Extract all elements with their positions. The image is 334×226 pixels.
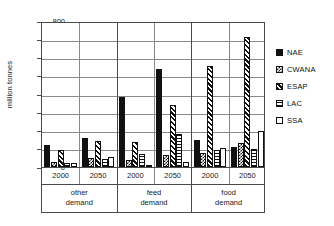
x-axis-year-label: 2050 <box>229 171 265 180</box>
bar-ssa-other-demand-2050 <box>108 157 114 167</box>
x-axis-year-label: 2000 <box>43 171 79 180</box>
bar-lac-feed-demand-2050 <box>176 134 182 167</box>
bar-ssa-food-demand-2050 <box>258 131 264 167</box>
gridline <box>42 132 264 133</box>
gridline <box>42 96 264 97</box>
bar-cwana-other-demand-2050 <box>88 158 94 167</box>
x-axis-separator <box>229 168 230 184</box>
x-axis-separator <box>154 168 155 184</box>
legend-item-esap[interactable]: ESAP <box>276 78 334 95</box>
bar-lac-other-demand-2000 <box>64 163 70 167</box>
legend-item-label: LAC <box>287 99 302 108</box>
x-axis-year-label: 2050 <box>155 171 191 180</box>
bar-nae-food-demand-2000 <box>194 140 200 167</box>
y-axis-title: million tonnes <box>5 50 14 120</box>
x-axis-separator <box>191 168 192 184</box>
legend-item-label: NAE <box>287 48 303 57</box>
gridline <box>42 77 264 78</box>
bar-nae-food-demand-2050 <box>231 147 237 167</box>
bar-ssa-other-demand-2000 <box>71 163 77 167</box>
bar-nae-feed-demand-2050 <box>156 69 162 167</box>
x-axis-group-separator <box>117 185 118 212</box>
x-axis-year-label: 2050 <box>80 171 116 180</box>
bar-esap-other-demand-2050 <box>95 141 101 167</box>
bar-nae-other-demand-2050 <box>82 138 88 167</box>
x-axis-group-label: fooddemand <box>192 188 266 207</box>
bar-ssa-feed-demand-2000 <box>146 165 152 167</box>
x-axis-separator <box>117 23 118 167</box>
bar-esap-food-demand-2000 <box>207 66 213 167</box>
bar-cwana-other-demand-2000 <box>51 162 57 167</box>
x-axis-separator <box>117 168 118 184</box>
x-axis-year-band: 200020502000205020002050 <box>41 168 265 185</box>
x-axis-separator <box>191 23 192 167</box>
bar-ssa-food-demand-2000 <box>220 148 226 167</box>
checker-swatch <box>276 66 283 73</box>
x-axis-separator <box>79 168 80 184</box>
x-axis-year-label: 2000 <box>117 171 153 180</box>
x-axis-group-separator <box>191 185 192 212</box>
horizontal-lines-swatch <box>276 100 283 107</box>
solid-black-swatch <box>276 49 283 56</box>
plot-area <box>41 22 265 168</box>
gridline <box>42 59 264 60</box>
legend-item-label: CWANA <box>287 65 316 74</box>
legend-item-label: ESAP <box>287 82 308 91</box>
bar-cwana-food-demand-2050 <box>238 143 244 167</box>
legend-item-ssa[interactable]: SSA <box>276 112 334 129</box>
bar-chart-figure: million tonnes 0100200300400500600700800… <box>0 0 334 226</box>
x-axis-separator <box>229 23 230 167</box>
legend-item-cwana[interactable]: CWANA <box>276 61 334 78</box>
bar-ssa-feed-demand-2050 <box>183 162 189 167</box>
x-axis-separator <box>154 23 155 167</box>
bar-esap-feed-demand-2050 <box>170 105 176 167</box>
bar-esap-food-demand-2050 <box>244 37 250 167</box>
bar-cwana-feed-demand-2000 <box>126 160 132 167</box>
diagonal-hatch-swatch <box>276 83 283 90</box>
x-axis-year-label: 2000 <box>192 171 228 180</box>
white-empty-swatch <box>276 117 283 124</box>
x-axis-separator <box>79 23 80 167</box>
bar-esap-other-demand-2000 <box>58 150 64 167</box>
legend-item-label: SSA <box>287 116 303 125</box>
bar-lac-food-demand-2050 <box>251 149 257 167</box>
bar-cwana-feed-demand-2050 <box>163 155 169 167</box>
bar-nae-other-demand-2000 <box>44 145 50 167</box>
x-axis-group-label: feeddemand <box>117 188 191 207</box>
x-axis-group-label: otherdemand <box>42 188 116 207</box>
x-axis-group-band: otherdemandfeeddemandfooddemand <box>41 185 265 213</box>
gridline <box>42 114 264 115</box>
chart-legend: NAECWANAESAPLACSSA <box>276 44 334 129</box>
bar-esap-feed-demand-2000 <box>132 142 138 167</box>
legend-item-lac[interactable]: LAC <box>276 95 334 112</box>
bar-lac-other-demand-2050 <box>102 159 108 167</box>
gridline <box>42 41 264 42</box>
bar-lac-food-demand-2000 <box>214 150 220 167</box>
bar-cwana-food-demand-2000 <box>200 153 206 167</box>
bar-nae-feed-demand-2000 <box>119 97 125 167</box>
legend-item-nae[interactable]: NAE <box>276 44 334 61</box>
bar-lac-feed-demand-2000 <box>139 154 145 167</box>
